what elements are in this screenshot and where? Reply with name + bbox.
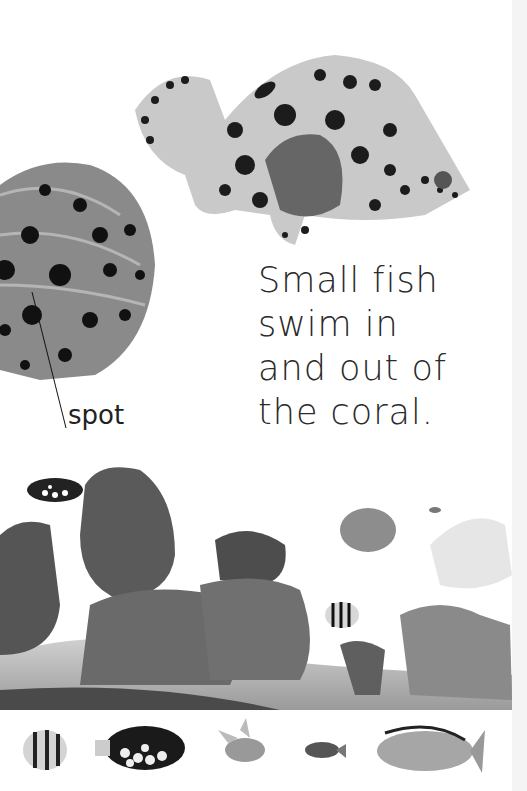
clown-triggerfish-icon xyxy=(95,726,185,770)
cardinalfish-icon xyxy=(218,718,265,762)
label-pointer-line xyxy=(30,290,70,430)
book-page: spot Small fish swim in and out of the c… xyxy=(0,0,512,791)
striped-fish-icon xyxy=(23,730,67,770)
page-edge xyxy=(512,0,527,791)
fish-strip xyxy=(0,718,512,783)
spot-label: spot xyxy=(68,400,124,430)
main-sentence: Small fish swim in and out of the coral. xyxy=(258,258,447,434)
text-line-2: swim in xyxy=(258,302,447,346)
coral-reef-image xyxy=(0,455,512,710)
unicornfish-icon xyxy=(377,727,485,773)
small-dark-fish-icon xyxy=(305,742,346,758)
text-line-3: and out of xyxy=(258,346,447,390)
text-line-1: Small fish xyxy=(258,258,447,302)
spotted-fish-image xyxy=(125,40,475,250)
text-line-4: the coral. xyxy=(258,390,447,434)
fin-closeup-image xyxy=(0,155,160,385)
